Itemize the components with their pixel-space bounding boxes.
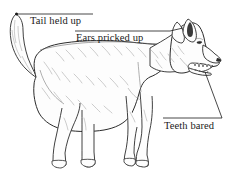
label-teeth-bared: Teeth bared — [164, 120, 214, 131]
dog-posture-figure: Tail held up Ears pricked up Teeth bared — [0, 0, 228, 182]
dog-hind-paw-far — [81, 159, 95, 167]
dog-front-paw-far — [124, 158, 135, 166]
dog-front-paw-near — [136, 160, 148, 167]
dog-illustration — [0, 0, 228, 182]
dog-hind-paw-near — [52, 160, 66, 168]
teeth-leader-diagonal — [205, 72, 222, 118]
label-ears-pricked-up: Ears pricked up — [76, 32, 143, 43]
dog-front-leg-near — [136, 92, 152, 167]
label-tail-held-up: Tail held up — [30, 15, 81, 26]
